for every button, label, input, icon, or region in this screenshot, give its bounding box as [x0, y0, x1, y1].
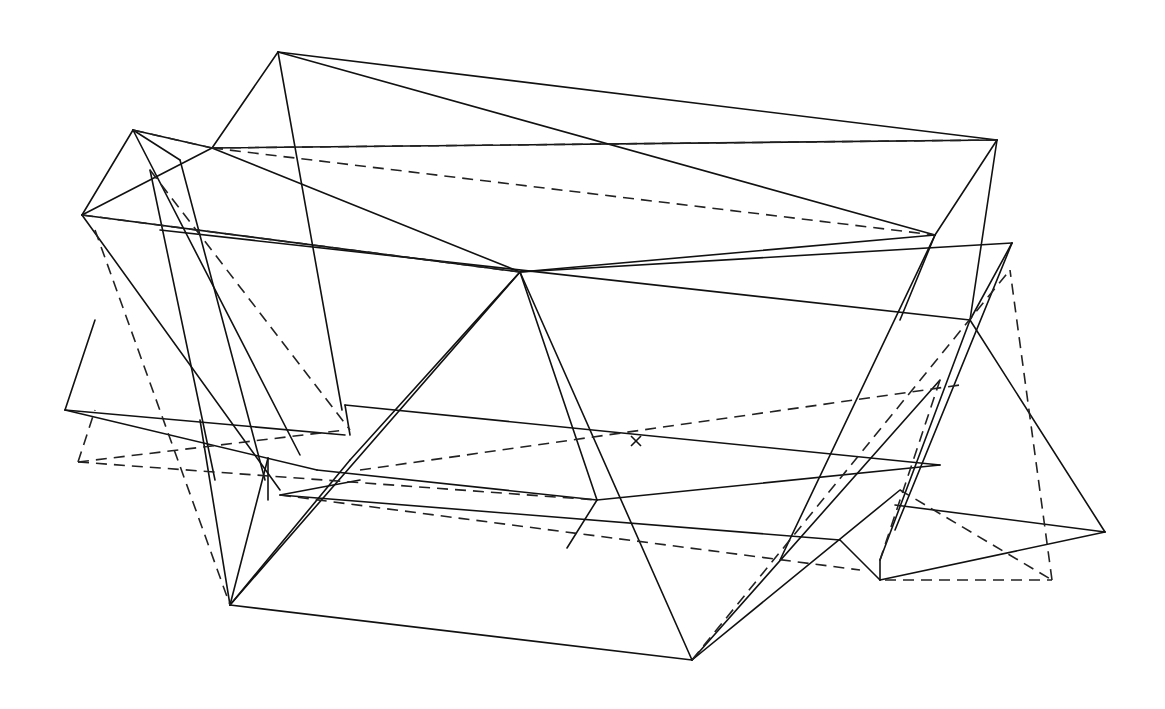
dashed-edge [78, 430, 345, 462]
solid-edge [520, 272, 597, 500]
dashed-edge [150, 170, 350, 430]
solid-edge [597, 465, 940, 500]
solid-edge [520, 235, 935, 272]
solid-edge [970, 320, 1105, 532]
dashed-edge [900, 490, 1052, 580]
solid-edge [780, 235, 935, 560]
wireframe-diagram [0, 0, 1165, 709]
solid-edge [230, 605, 692, 660]
solid-edge [65, 320, 95, 410]
dashed-edge [692, 270, 1010, 660]
solid-edge [567, 500, 597, 548]
solid-edge [317, 470, 597, 500]
solid-edge [278, 52, 342, 410]
dashed-edge [78, 462, 597, 500]
solid-edge [840, 540, 880, 580]
solid-edge [692, 380, 940, 660]
dashed-edge [78, 410, 95, 462]
solid-edge [970, 140, 997, 320]
solid-edge [345, 405, 350, 435]
solid-edge [880, 320, 970, 560]
dashed-edge [280, 495, 860, 570]
wireframe-svg [0, 0, 1165, 709]
solid-edge [230, 272, 520, 605]
solid-edge [520, 272, 692, 660]
solid-edge [880, 532, 1105, 580]
solid-edge [345, 405, 940, 465]
solid-edge [180, 160, 265, 480]
dashed-polyhedron [78, 130, 1052, 660]
dashed-edge [95, 230, 230, 605]
solid-edge [212, 52, 278, 148]
solid-edge [520, 243, 1012, 272]
solid-edge [278, 52, 997, 140]
solid-edge [65, 410, 317, 470]
x-marker-icon [631, 436, 641, 446]
dashed-edge [1010, 270, 1052, 580]
solid-polyhedron [65, 52, 1105, 660]
solid-edge [895, 505, 1105, 532]
solid-edge [150, 170, 215, 480]
solid-edge [935, 140, 997, 235]
solid-edge [280, 495, 840, 540]
solid-edge [82, 215, 280, 490]
solid-edge [692, 490, 900, 660]
